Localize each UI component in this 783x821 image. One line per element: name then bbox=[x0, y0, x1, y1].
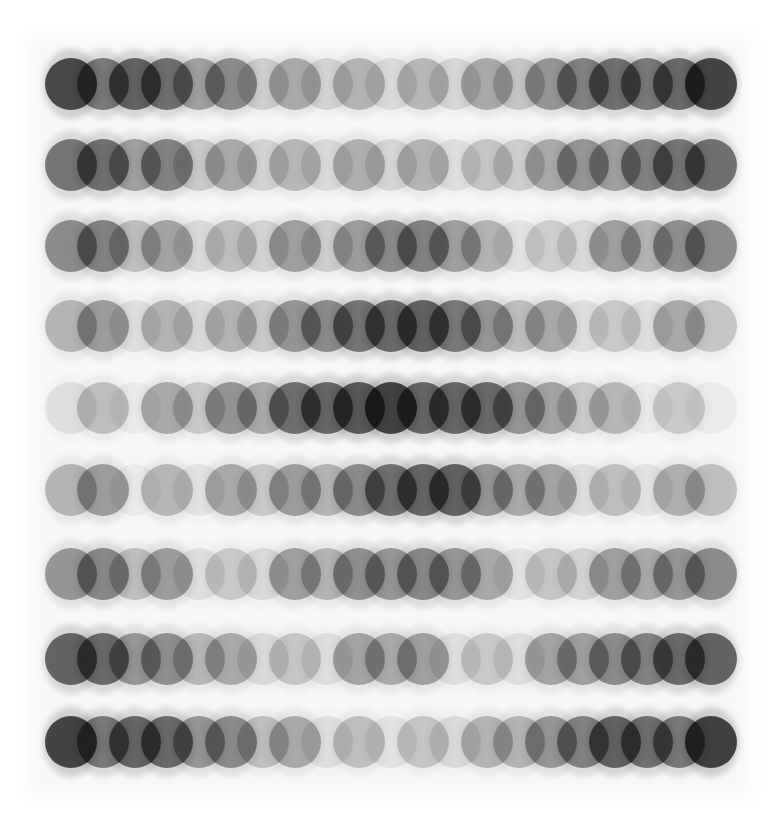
circle-dot bbox=[685, 464, 737, 516]
circle-dot bbox=[685, 716, 737, 768]
circle-dot bbox=[685, 548, 737, 600]
dot-grid-artwork bbox=[0, 0, 783, 821]
circle-dot bbox=[685, 220, 737, 272]
circle-dot bbox=[685, 300, 737, 352]
circle-dot bbox=[685, 139, 737, 191]
circle-dot bbox=[685, 633, 737, 685]
circle-dot bbox=[685, 58, 737, 110]
circle-dot bbox=[685, 382, 737, 434]
